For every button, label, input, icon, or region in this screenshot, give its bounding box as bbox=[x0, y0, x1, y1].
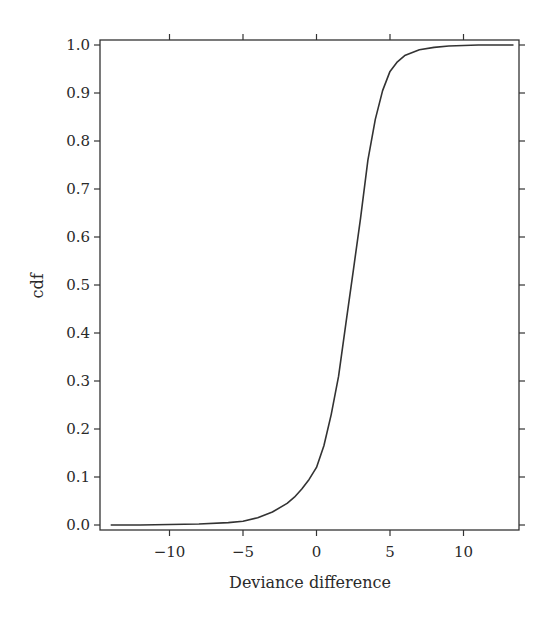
plot-frame bbox=[100, 40, 519, 530]
axes-box bbox=[100, 40, 519, 530]
y-tick-label: 0.3 bbox=[66, 372, 90, 390]
cdf-chart: −10−50510 0.00.10.20.30.40.50.60.70.80.9… bbox=[0, 0, 552, 620]
y-axis-ticks: 0.00.10.20.30.40.50.60.70.80.91.0 bbox=[66, 36, 525, 534]
y-tick-label: 0.1 bbox=[66, 468, 90, 486]
y-tick-label: 0.0 bbox=[66, 516, 90, 534]
y-tick-label: 0.8 bbox=[66, 132, 90, 150]
y-tick-label: 0.2 bbox=[66, 420, 90, 438]
cdf-curve bbox=[111, 45, 514, 525]
x-tick-label: −5 bbox=[232, 543, 254, 561]
y-tick-label: 0.9 bbox=[66, 84, 90, 102]
y-tick-label: 0.5 bbox=[66, 276, 90, 294]
x-tick-label: 10 bbox=[454, 543, 473, 561]
x-tick-label: 0 bbox=[312, 543, 322, 561]
y-tick-label: 0.7 bbox=[66, 180, 90, 198]
y-axis-label: cdf bbox=[28, 272, 47, 298]
x-tick-label: −10 bbox=[154, 543, 186, 561]
x-axis-label: Deviance difference bbox=[229, 573, 391, 592]
x-axis-ticks: −10−50510 bbox=[154, 34, 473, 561]
y-tick-label: 0.4 bbox=[66, 324, 90, 342]
x-tick-label: 5 bbox=[385, 543, 395, 561]
y-tick-label: 0.6 bbox=[66, 228, 90, 246]
y-tick-label: 1.0 bbox=[66, 36, 90, 54]
